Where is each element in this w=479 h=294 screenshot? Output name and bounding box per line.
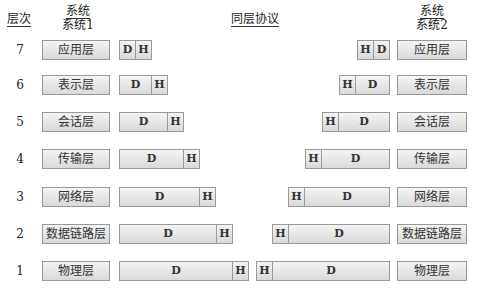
level-number: 5 <box>14 115 26 129</box>
data-segment: D <box>322 150 389 168</box>
system1-header: 系统 系统1 <box>50 5 106 32</box>
level-number: 3 <box>14 190 26 204</box>
data-segment: D <box>374 41 389 59</box>
level-number: 1 <box>14 264 26 278</box>
system1-layer-box: 数据链路层 <box>42 224 110 244</box>
header-segment: H <box>167 113 183 131</box>
header-segment: H <box>273 225 289 243</box>
header-segment: H <box>358 41 374 59</box>
header-segment: H <box>323 113 339 131</box>
system2-layer-box: 传输层 <box>397 149 467 169</box>
system1-layer-box: 网络层 <box>42 187 110 207</box>
header-segment: H <box>199 188 215 206</box>
header-segment: H <box>289 188 305 206</box>
header-segment: H <box>151 76 167 94</box>
system2-packet: H D <box>305 149 390 169</box>
system2-header-bottom: 系统2 <box>404 19 460 32</box>
system1-packet: D H <box>119 40 152 60</box>
system2-header-top: 系统 <box>420 5 444 19</box>
level-number: 2 <box>14 227 26 241</box>
system2-packet: H D <box>272 224 390 244</box>
system2-layer-box: 网络层 <box>397 187 467 207</box>
system2-packet: H D <box>322 112 390 132</box>
system2-layer-box: 物理层 <box>397 261 467 281</box>
system2-layer-box: 会话层 <box>397 112 467 132</box>
data-segment: D <box>305 188 389 206</box>
system1-layer-box: 应用层 <box>42 40 110 60</box>
data-segment: D <box>120 76 151 94</box>
data-segment: D <box>120 150 183 168</box>
system1-packet: D H <box>119 149 200 169</box>
system1-layer-box: 会话层 <box>42 112 110 132</box>
data-segment: D <box>356 76 389 94</box>
data-segment: D <box>289 225 389 243</box>
level-number: 7 <box>14 43 26 57</box>
system1-layer-box: 表示层 <box>42 75 110 95</box>
header-segment: H <box>216 225 232 243</box>
data-segment: D <box>120 113 167 131</box>
system1-header-bottom: 系统1 <box>50 19 106 32</box>
system2-layer-box: 表示层 <box>397 75 467 95</box>
system1-packet: D H <box>119 187 216 207</box>
data-segment: D <box>339 113 389 131</box>
header-segment: H <box>340 76 356 94</box>
data-segment: D <box>120 188 199 206</box>
system1-packet: D H <box>119 75 168 95</box>
system2-packet: H D <box>339 75 390 95</box>
system1-layer-box: 物理层 <box>42 261 110 281</box>
system1-layer-box: 传输层 <box>42 149 110 169</box>
system2-packet: H D <box>256 261 390 281</box>
system2-packet: H D <box>288 187 390 207</box>
level-number: 4 <box>14 152 26 166</box>
data-segment: D <box>120 41 135 59</box>
system1-packet: D H <box>119 224 233 244</box>
system1-packet: D H <box>119 261 249 281</box>
system1-packet: D H <box>119 112 184 132</box>
header-segment: H <box>135 41 151 59</box>
system1-header-top: 系统 <box>66 5 90 19</box>
level-number: 6 <box>14 78 26 92</box>
data-segment: D <box>120 262 232 280</box>
header-segment: H <box>183 150 199 168</box>
system2-packet: H D <box>357 40 390 60</box>
level-header: 层次 <box>4 13 34 27</box>
system2-layer-box: 数据链路层 <box>397 224 467 244</box>
system2-layer-box: 应用层 <box>397 40 467 60</box>
data-segment: D <box>273 262 389 280</box>
protocol-header: 同层协议 <box>220 13 290 27</box>
system2-header: 系统 系统2 <box>404 5 460 32</box>
header-segment: H <box>306 150 322 168</box>
data-segment: D <box>120 225 216 243</box>
header-segment: H <box>232 262 248 280</box>
header-segment: H <box>257 262 273 280</box>
